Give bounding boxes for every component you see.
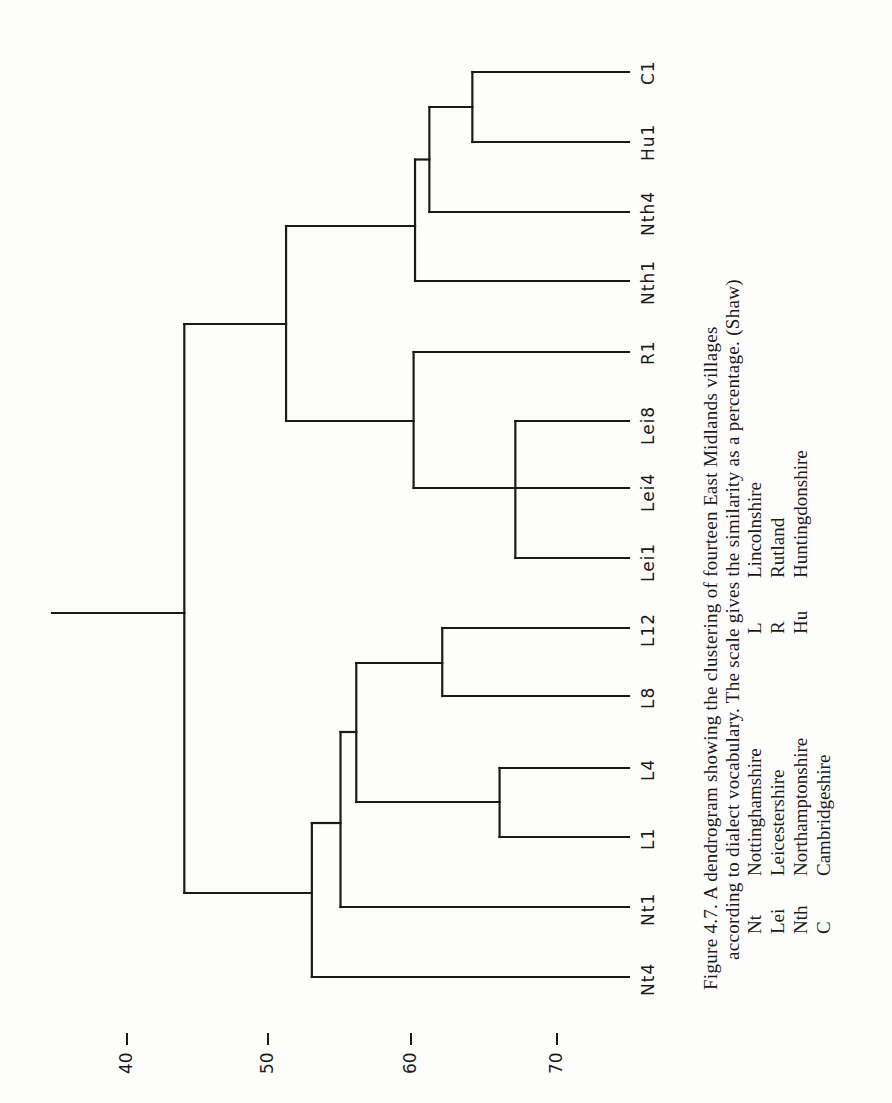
legend-name: Northamptonshire [790,738,812,876]
legend-row: LeiLeicestershire [767,634,790,934]
legend-column-left: NtNottinghamshire LeiLeicestershire NthN… [744,634,836,934]
legend-name: Nottinghamshire [744,748,766,876]
leaf-label: R1 [638,340,658,365]
legend-abbr: Nt [744,876,766,934]
leaf-label: Lei1 [638,543,658,582]
leaf-label: Nt1 [638,892,658,925]
legend-row: NtNottinghamshire [744,634,767,934]
legend-abbr: C [813,876,835,934]
axis-ticks [127,1033,557,1045]
leaf-label: C1 [638,60,658,85]
leaf-label: Lei8 [638,406,658,445]
dendrogram-branches [52,72,629,977]
legend-name: Cambridgeshire [813,755,835,876]
axis-tick-label: 70 [546,1052,566,1074]
leaf-label: L12 [638,612,658,646]
legend-name: Rutland [767,518,789,578]
legend-name: Lincolnshire [744,482,766,578]
legend-column-right: LLincolnshire RRutland HuHuntingdonshire [744,450,836,634]
figure-caption: Figure 4.7. A dendrogram showing the clu… [700,279,836,990]
legend-name: Huntingdonshire [790,450,812,578]
leaf-label: Nth4 [638,191,658,236]
leaf-label: Hu1 [638,123,658,160]
legend-abbr: R [767,578,789,634]
caption-line-2: according to dialect vocabulary. The sca… [722,279,744,990]
legend-row: RRutland [767,450,790,634]
leaf-label: L1 [638,828,658,850]
legend-abbr: Hu [790,578,812,634]
legend-row: CCambridgeshire [813,634,836,934]
legend-row: LLincolnshire [744,450,767,634]
legend-row: NthNorthamptonshire [790,634,813,934]
axis-tick-label: 50 [257,1052,277,1074]
leaf-label: Nth1 [638,260,658,305]
legend-abbr: Lei [767,876,789,934]
leaf-label: L8 [638,687,658,709]
leaf-label: Nt4 [638,962,658,995]
caption-legend: NtNottinghamshire LeiLeicestershire NthN… [744,279,836,990]
axis-tick-label: 60 [400,1052,420,1074]
caption-line-1: Figure 4.7. A dendrogram showing the clu… [700,279,722,990]
legend-abbr: Nth [790,876,812,934]
legend-name: Leicestershire [767,769,789,876]
legend-abbr: L [744,578,766,634]
leaf-label: Lei4 [638,473,658,512]
leaf-label: L4 [638,759,658,781]
legend-row: HuHuntingdonshire [790,450,813,634]
axis-tick-label: 40 [116,1052,136,1074]
